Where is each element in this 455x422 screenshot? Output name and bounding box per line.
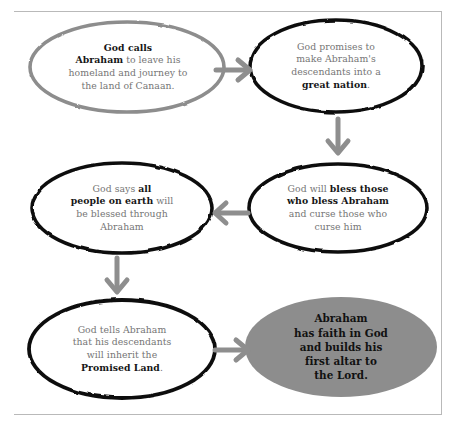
node-all-people-on-earth-text: God says allpeople on earth willbe bless… [44, 172, 200, 244]
node-bless-those-who-bless-text: God will bless thosewho bless Abrahamand… [262, 172, 414, 244]
node-promised-land-text: God tells Abrahamthat his descendantswil… [44, 312, 200, 386]
text-line: God tells Abraham [78, 324, 167, 337]
text-line: Abraham [100, 221, 143, 234]
text-line: God says all [93, 183, 152, 196]
text-line: the Lord. [314, 368, 368, 382]
node-abraham-has-faith-text: Abrahamhas faith in Godand builds hisfir… [262, 306, 420, 388]
text-line: great nation. [302, 79, 370, 92]
text-line: God will bless those [288, 183, 389, 196]
flowchart-page: God callsAbraham to leave hishomeland an… [0, 0, 455, 422]
node-god-calls-abraham-text: God callsAbraham to leave hishomeland an… [44, 30, 212, 104]
text-line: first altar to [305, 354, 377, 368]
text-line: Promised Land. [81, 362, 163, 375]
text-line: the land of Canaan. [81, 80, 174, 93]
text-line: has faith in God [294, 326, 388, 340]
node-great-nation-text: God promises tomake Abraham'sdescendants… [262, 28, 410, 104]
arrow-3 [215, 203, 248, 223]
text-line: God promises to [297, 41, 375, 54]
text-line: God calls [104, 42, 152, 55]
text-line: and builds his [300, 340, 383, 354]
arrow-5 [215, 340, 248, 360]
text-line: people on earth will [71, 195, 174, 208]
text-line: homeland and journey to [69, 67, 188, 80]
text-line: that his descendants [73, 336, 172, 349]
text-line: will inherit the [87, 349, 157, 362]
text-line: make Abraham's [296, 53, 375, 66]
text-line: Abraham [314, 311, 367, 325]
arrow-4 [107, 258, 127, 292]
text-line: curse him [314, 221, 361, 234]
text-line: descendants into a [291, 66, 381, 79]
arrow-2 [328, 119, 348, 153]
text-line: who bless Abraham [287, 195, 389, 208]
text-line: be blessed through [76, 208, 167, 221]
text-line: and curse those who [289, 208, 387, 221]
text-line: Abraham to leave his [76, 54, 181, 67]
